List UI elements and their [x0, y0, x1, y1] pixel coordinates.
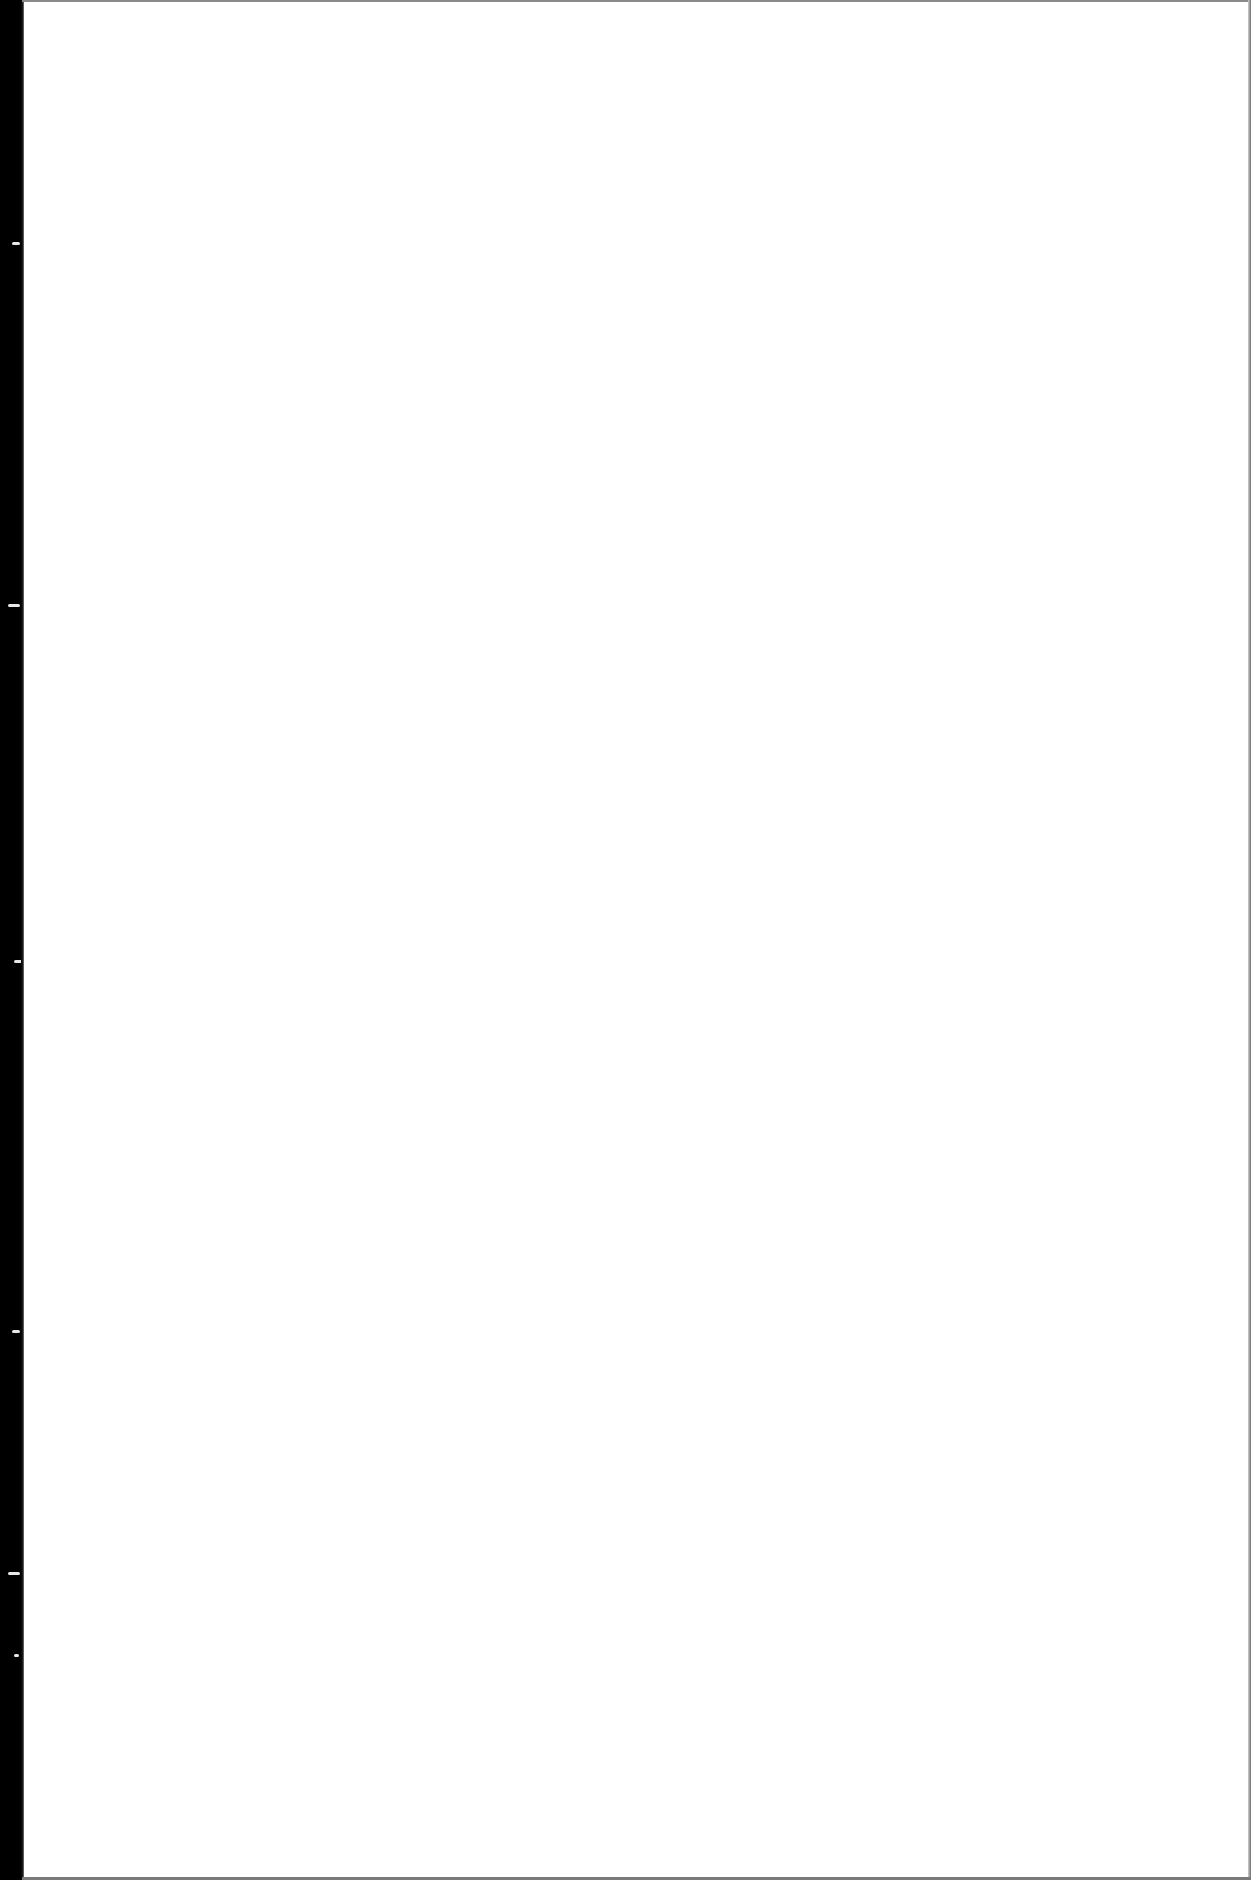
- scan-speck: [8, 604, 20, 607]
- scanned-page: [0, 0, 1251, 1880]
- scan-speck: [12, 1330, 20, 1333]
- binding-edge: [0, 0, 22, 1880]
- scan-speck: [14, 960, 22, 963]
- scan-speck: [12, 242, 20, 245]
- blank-page-body: [24, 2, 1248, 1877]
- scan-speck: [8, 1572, 20, 1575]
- scan-speck: [14, 1654, 19, 1657]
